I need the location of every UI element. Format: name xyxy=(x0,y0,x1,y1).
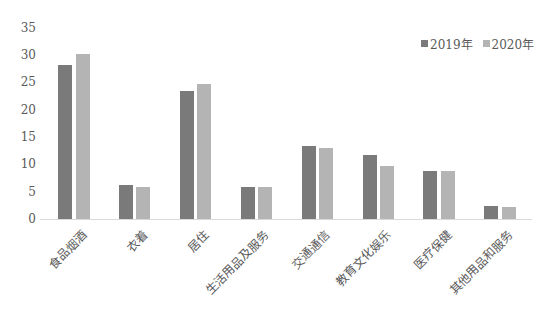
legend-item: 2020年 xyxy=(483,35,535,52)
bar-2019年 xyxy=(241,187,255,219)
bar-2019年 xyxy=(484,206,498,219)
x-tick-label: 生活用品及服务 xyxy=(201,226,272,297)
y-tick-label: 10 xyxy=(0,157,36,171)
bar-2019年 xyxy=(58,65,72,219)
y-tick-label: 25 xyxy=(0,75,36,89)
legend-label: 2019年 xyxy=(430,35,473,52)
bar-2020年 xyxy=(502,207,516,219)
bar-2019年 xyxy=(363,155,377,219)
y-tick-label: 15 xyxy=(0,130,36,144)
bar-2020年 xyxy=(197,84,211,219)
x-tick-label: 交通通信 xyxy=(287,226,333,272)
x-tick-label: 教育文化娱乐 xyxy=(331,226,394,289)
x-axis-line xyxy=(40,219,532,220)
bar-2019年 xyxy=(302,146,316,219)
y-tick-label: 20 xyxy=(0,103,36,117)
bar-2020年 xyxy=(441,171,455,219)
y-tick-label: 30 xyxy=(0,48,36,62)
legend-swatch-icon xyxy=(483,40,490,47)
y-tick-label: 0 xyxy=(0,212,36,226)
legend-swatch-icon xyxy=(421,40,428,47)
x-tick-label: 医疗保健 xyxy=(409,226,455,272)
legend: 2019年2020年 xyxy=(421,35,534,52)
bar-2020年 xyxy=(319,148,333,219)
bar-2020年 xyxy=(258,187,272,219)
bar-2020年 xyxy=(76,54,90,219)
y-tick-label: 35 xyxy=(0,21,36,35)
legend-label: 2020年 xyxy=(492,35,535,52)
bar-2019年 xyxy=(423,171,437,219)
legend-item: 2019年 xyxy=(421,35,473,52)
bar-2020年 xyxy=(136,187,150,219)
x-tick-label: 其他用品和服务 xyxy=(445,226,516,297)
bar-2020年 xyxy=(380,166,394,219)
bar-2019年 xyxy=(119,185,133,219)
y-tick-label: 5 xyxy=(0,185,36,199)
x-tick-label: 居住 xyxy=(183,226,212,255)
bar-2019年 xyxy=(180,91,194,219)
bar-chart: 05101520253035 食品烟酒衣着居住生活用品及服务交通通信教育文化娱乐… xyxy=(0,0,549,313)
x-tick-label: 衣着 xyxy=(122,226,151,255)
x-tick-label: 食品烟酒 xyxy=(44,226,90,272)
